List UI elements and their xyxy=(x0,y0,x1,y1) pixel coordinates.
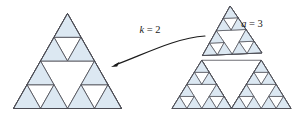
right-sierpinski-bottom-row xyxy=(172,60,291,108)
label-a: a = 3 xyxy=(241,18,263,29)
curved-arrow xyxy=(111,36,205,67)
filled-subtriangle-overlay xyxy=(223,6,238,19)
arrow-curve xyxy=(115,36,205,65)
left-sierpinski-depth-2 xyxy=(14,14,122,109)
sierpinski-figure: k = 2 a = 3 xyxy=(0,0,297,120)
figure-canvas: k = 2 a = 3 xyxy=(0,0,297,120)
filled-subtriangle-overlay xyxy=(54,14,81,38)
label-k: k = 2 xyxy=(139,24,160,35)
arrow-head xyxy=(111,62,120,67)
right-sierpinski-top-piece xyxy=(200,5,262,56)
